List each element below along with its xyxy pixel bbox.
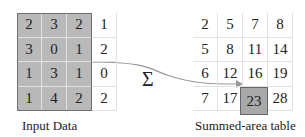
- output-cell: 7: [243, 13, 268, 38]
- input-cell: 1: [92, 13, 117, 38]
- input-cell: 4: [42, 87, 67, 112]
- input-cell: 2: [92, 87, 117, 112]
- output-cell: 19: [268, 62, 293, 87]
- input-cell: 2: [92, 38, 117, 63]
- input-cell: 1: [17, 87, 42, 112]
- output-cell: 2: [193, 13, 218, 38]
- input-cell: 2: [17, 13, 42, 38]
- sigma-operator: Σ: [142, 68, 154, 91]
- output-cell: 5: [193, 38, 218, 63]
- output-cell: 8: [268, 13, 293, 38]
- input-cell: 3: [42, 62, 67, 87]
- output-cell: 11: [243, 38, 268, 63]
- input-cell: 1: [17, 62, 42, 87]
- input-cell: 1: [67, 38, 92, 63]
- input-cell: 3: [17, 38, 42, 63]
- input-cell: 0: [42, 38, 67, 63]
- input-cell: 1: [67, 62, 92, 87]
- output-cell: 28: [268, 87, 293, 112]
- output-cell: 6: [193, 62, 218, 87]
- output-cell: 16: [243, 62, 268, 87]
- input-cell: 0: [92, 62, 117, 87]
- input-data-grid: 2321301213101422: [17, 13, 117, 111]
- highlighted-cell: 23: [240, 87, 268, 115]
- input-cell: 3: [42, 13, 67, 38]
- input-data-label: Input Data: [22, 118, 77, 134]
- output-cell: 5: [218, 13, 243, 38]
- input-cell: 2: [67, 13, 92, 38]
- output-cell: 7: [193, 87, 218, 112]
- output-cell: 8: [218, 38, 243, 63]
- summed-area-table-label: Summed-area table: [195, 118, 296, 134]
- output-cell: 12: [218, 62, 243, 87]
- input-cell: 2: [67, 87, 92, 112]
- output-cell: 14: [268, 38, 293, 63]
